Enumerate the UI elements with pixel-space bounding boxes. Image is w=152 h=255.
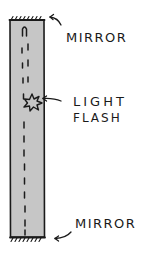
top-mirror-arrow-icon <box>50 15 61 26</box>
light-flash-label-line2: FLASH <box>73 112 122 124</box>
top-mirror-label: MIRROR <box>66 31 127 44</box>
light-clock-diagram: MIRROR LIGHT FLASH MIRROR <box>0 0 152 255</box>
top-mirror-hatching-icon <box>10 17 45 21</box>
light-flash-arrow-icon <box>43 96 61 101</box>
light-flash-label-line1: LIGHT <box>73 95 127 108</box>
bottom-mirror-arrow-icon <box>55 232 71 241</box>
light-clock-tube <box>10 20 45 237</box>
bottom-mirror-label: MIRROR <box>75 217 136 230</box>
bottom-mirror-hatching-icon <box>10 238 45 242</box>
